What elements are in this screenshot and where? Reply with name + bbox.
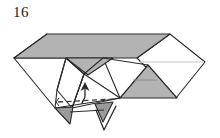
bottom-left-pleat-triangle xyxy=(55,107,73,124)
figure-canvas: 16 xyxy=(0,0,220,138)
bottom-right-pleat-triangle xyxy=(95,102,113,122)
origami-diagram xyxy=(0,0,220,138)
